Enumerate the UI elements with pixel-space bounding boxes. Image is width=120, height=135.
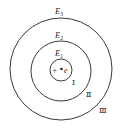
nucleus-dot bbox=[60, 68, 63, 71]
atom-diagram: + e E3 E2 E1 Ⅰ Ⅱ Ⅲ bbox=[0, 0, 120, 135]
orbit-label-I: Ⅰ bbox=[72, 78, 75, 87]
energy-label-E1: E1 bbox=[54, 48, 63, 59]
orbit-label-II: Ⅱ bbox=[86, 90, 91, 99]
electron-label: e bbox=[64, 66, 68, 75]
orbit-II bbox=[31, 41, 91, 101]
energy-label-E3: E3 bbox=[54, 6, 63, 17]
orbit-label-III: Ⅲ bbox=[99, 106, 107, 115]
nucleus-charge: + bbox=[53, 66, 58, 75]
energy-label-E2: E2 bbox=[54, 30, 63, 41]
